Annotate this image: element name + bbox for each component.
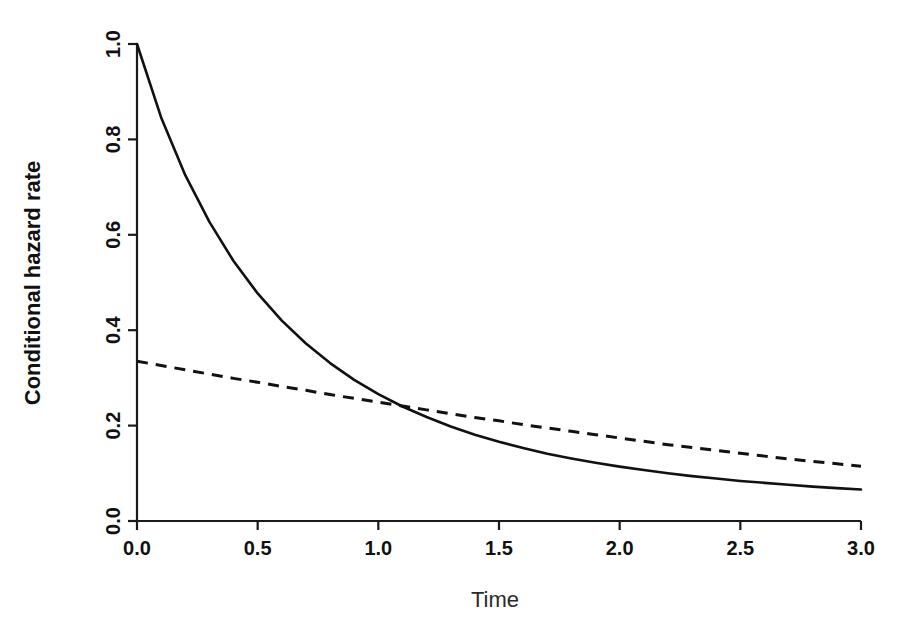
- y-tick-label: 0.2: [102, 412, 124, 440]
- x-tick-label: 2.0: [606, 537, 634, 559]
- y-tick-label: 0.8: [102, 125, 124, 153]
- dashed-hazard-curve: [137, 361, 861, 466]
- x-axis-title: Time: [471, 587, 519, 612]
- solid-hazard-curve: [137, 44, 861, 490]
- y-axis-title: Conditional hazard rate: [20, 161, 45, 405]
- chart-page: 0.00.51.01.52.02.53.0 0.00.20.40.60.81.0…: [0, 0, 916, 638]
- y-tick-label: 0.0: [102, 507, 124, 535]
- x-tick-label: 0.5: [244, 537, 272, 559]
- x-tick-label: 0.0: [123, 537, 151, 559]
- x-tick-label: 2.5: [726, 537, 754, 559]
- x-tick-label: 3.0: [847, 537, 875, 559]
- y-axis-tick-labels: 0.00.20.40.60.81.0: [102, 30, 124, 535]
- x-axis-tick-labels: 0.00.51.01.52.02.53.0: [123, 537, 875, 559]
- x-tick-label: 1.0: [364, 537, 392, 559]
- x-tick-label: 1.5: [485, 537, 513, 559]
- y-tick-label: 1.0: [102, 30, 124, 58]
- hazard-rate-chart: 0.00.51.01.52.02.53.0 0.00.20.40.60.81.0…: [0, 0, 916, 638]
- y-axis-ticks: [128, 44, 137, 521]
- y-tick-label: 0.4: [102, 315, 124, 344]
- x-axis-ticks: [137, 521, 861, 530]
- y-tick-label: 0.6: [102, 221, 124, 249]
